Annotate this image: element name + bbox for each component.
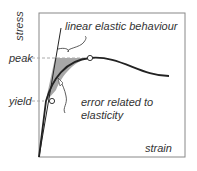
error-annotation-line2: elasticity <box>81 109 123 121</box>
peak-label: peak <box>9 52 33 64</box>
x-axis-label: strain <box>145 142 172 154</box>
y-axis-label: stress <box>13 11 25 40</box>
linear-leader <box>58 36 86 52</box>
peak-marker <box>87 55 92 60</box>
linear-elastic-annotation: linear elastic behaviour <box>65 20 178 32</box>
yield-marker <box>49 98 54 103</box>
error-annotation-line1: error related to <box>81 96 153 108</box>
yield-label: yield <box>9 95 32 107</box>
